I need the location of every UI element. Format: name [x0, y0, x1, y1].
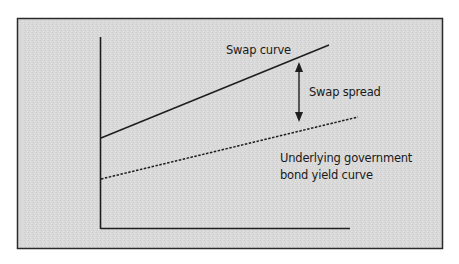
government-curve-label: Underlying government bond yield curve	[280, 150, 412, 184]
swap-curve-label: Swap curve	[226, 42, 291, 59]
government-curve-label-line1: Underlying government	[280, 150, 412, 167]
swap-spread-diagram	[0, 0, 459, 264]
government-curve-label-line2: bond yield curve	[280, 167, 412, 184]
swap-spread-label: Swap spread	[309, 84, 381, 101]
